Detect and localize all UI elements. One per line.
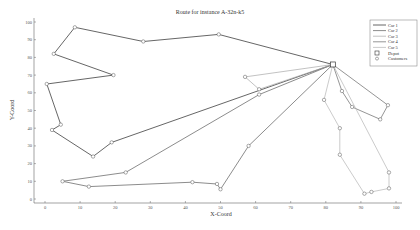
legend-label: Car 1 (388, 23, 398, 28)
customer-node (386, 103, 389, 106)
customer-node (110, 141, 113, 144)
customer-node (338, 127, 341, 130)
x-tick-label: 20 (113, 205, 118, 210)
x-tick-label: 70 (288, 205, 293, 210)
route-car-1 (47, 27, 333, 156)
customer-node (387, 171, 390, 174)
customer-node (45, 82, 48, 85)
customer-node (243, 75, 246, 78)
legend-depot-icon (375, 51, 379, 55)
customer-node (142, 40, 145, 43)
x-tick-label: 10 (78, 205, 83, 210)
x-tick-label: 50 (218, 205, 223, 210)
chart-title: Route for instance A-32n-k5 (176, 9, 244, 15)
customer-node (247, 144, 250, 147)
legend-label-customers: Customers (388, 56, 407, 61)
route-car-2 (63, 65, 333, 190)
customer-node (350, 105, 353, 108)
x-tick-label: 30 (148, 205, 153, 210)
customer-node (61, 180, 64, 183)
x-tick-label: 40 (183, 205, 188, 210)
route-chart: Route for instance A-32n-k5 010203040506… (0, 0, 420, 230)
customer-node (322, 98, 325, 101)
customer-node (52, 52, 55, 55)
axes: 0102030405060708090100010203040506070809… (25, 18, 402, 210)
customer-node (340, 89, 343, 92)
customer-node (215, 182, 218, 185)
legend-customer-icon (376, 57, 379, 60)
customer-node (379, 118, 382, 121)
routes (47, 27, 389, 193)
y-tick-label: 50 (28, 108, 33, 113)
y-tick-label: 0 (30, 197, 33, 202)
customer-node (112, 73, 115, 76)
customer-node (217, 33, 220, 36)
x-tick-label: 100 (393, 205, 401, 210)
customer-node (50, 128, 53, 131)
y-tick-label: 100 (25, 20, 33, 25)
y-tick-label: 90 (28, 37, 33, 42)
customer-nodes (45, 26, 391, 196)
customer-node (191, 180, 194, 183)
customer-node (387, 187, 390, 190)
customer-node (219, 188, 222, 191)
y-tick-label: 60 (28, 90, 33, 95)
legend-label: Car 5 (388, 45, 399, 50)
customer-node (257, 93, 260, 96)
depot-marker (330, 62, 335, 67)
y-tick-label: 30 (28, 143, 33, 148)
legend-label: Car 4 (388, 39, 399, 44)
depot-square-icon (330, 62, 335, 67)
legend-label-depot: Depot (388, 51, 400, 56)
customer-node (370, 190, 373, 193)
x-tick-label: 60 (253, 205, 258, 210)
customer-node (87, 185, 90, 188)
y-tick-label: 10 (28, 179, 33, 184)
legend-label: Car 3 (388, 34, 399, 39)
x-tick-label: 0 (44, 205, 47, 210)
customer-node (363, 192, 366, 195)
x-tick-label: 80 (324, 205, 329, 210)
y-tick-label: 80 (28, 55, 33, 60)
y-axis-label: Y-Coord (9, 100, 15, 121)
y-tick-label: 20 (28, 161, 33, 166)
legend: Car 1Car 2Car 3Car 4Car 5DepotCustomers (370, 20, 417, 66)
y-tick-label: 40 (28, 126, 33, 131)
customer-node (59, 123, 62, 126)
customer-node (73, 26, 76, 29)
customer-node (338, 153, 341, 156)
x-axis-label: X-Coord (210, 211, 231, 217)
customer-node (257, 88, 260, 91)
route-car-5 (324, 65, 389, 194)
legend-label: Car 2 (388, 28, 398, 33)
y-tick-label: 70 (28, 73, 33, 78)
customer-node (91, 155, 94, 158)
customer-node (124, 171, 127, 174)
x-tick-label: 90 (359, 205, 364, 210)
